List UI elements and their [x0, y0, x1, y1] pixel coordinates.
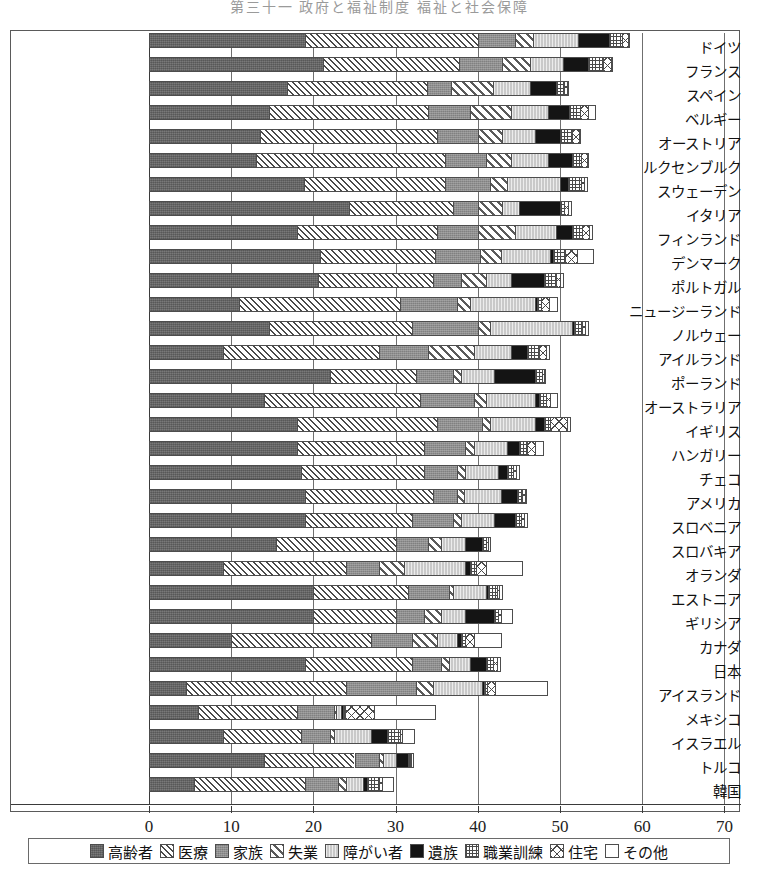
bar-segment-医療: [297, 441, 424, 456]
bar-segment-その他: [589, 225, 593, 240]
bar-segment-高齢者: [149, 513, 305, 528]
bar-segment-その他: [544, 369, 546, 384]
bar-segment-家族: [437, 417, 482, 432]
bar-segment-職業訓練: [486, 657, 493, 672]
bar-segment-失業: [482, 417, 490, 432]
bar-segment-その他: [587, 153, 589, 168]
legend-item-housing: 住宅: [550, 841, 598, 862]
bar-segment-医療: [323, 57, 459, 72]
bar-segment-家族: [400, 297, 458, 312]
bar-row: オーストリア: [11, 129, 741, 153]
bar-row: ポーランド: [11, 369, 741, 393]
bar-segment-医療: [313, 585, 408, 600]
bar-segment-職業訓練: [515, 513, 522, 528]
x-axis: [11, 804, 741, 805]
bar-segment-高齢者: [149, 249, 320, 264]
bar-segment-高齢者: [149, 369, 330, 384]
bar-segment-遺族: [560, 177, 568, 192]
category-label: 日本: [609, 660, 741, 681]
bar-segment-医療: [297, 417, 437, 432]
bar-segment-医療: [305, 33, 478, 48]
bar-segment-医療: [264, 753, 354, 768]
bar-segment-失業: [474, 393, 486, 408]
bar-segment-その他: [488, 537, 490, 552]
bar-segment-その他: [585, 321, 589, 336]
stacked-bar-plot: 010203040506070ドイツフランススペインベルギーオーストリアルクセン…: [11, 31, 741, 813]
bar-segment-医療: [313, 609, 395, 624]
bar-segment-医療: [260, 129, 437, 144]
bar-row: イスラエル: [11, 729, 741, 753]
bar-segment-遺族: [511, 345, 527, 360]
legend-item-medical: 医療: [160, 841, 208, 862]
bar-segment-高齢者: [149, 201, 349, 216]
category-label: ニュージーランド: [609, 300, 741, 321]
bar-segment-高齢者: [149, 57, 323, 72]
bar-segment-その他: [560, 273, 564, 288]
bar-segment-高齢者: [149, 777, 194, 792]
x-tick-label-50: 50: [540, 817, 580, 837]
bar-segment-高齢者: [149, 129, 260, 144]
bar-segment-遺族: [578, 33, 609, 48]
bar-segment-医療: [301, 465, 424, 480]
bar-segment-遺族: [501, 489, 517, 504]
bar-segment-遺族: [556, 225, 572, 240]
bar-segment-高齢者: [149, 705, 198, 720]
bar-segment-障がい者: [515, 225, 556, 240]
category-label: ルクセンブルク: [609, 156, 741, 177]
category-label: ハンガリー: [609, 444, 741, 465]
category-label: イギリス: [609, 420, 741, 441]
bar-row: カナダ: [11, 633, 741, 657]
category-label: フランス: [609, 60, 741, 81]
bar-row: ルクセンブルク: [11, 153, 741, 177]
legend-item-unemployment: 失業: [270, 841, 318, 862]
bar-row: アメリカ: [11, 489, 741, 513]
x-tick-70: [724, 806, 725, 813]
legend-item-training: 職業訓練: [465, 841, 543, 862]
bar-segment-遺族: [494, 369, 535, 384]
bar-segment-家族: [371, 633, 412, 648]
category-label: ポーランド: [609, 372, 741, 393]
bar-segment-家族: [459, 57, 502, 72]
bar-segment-その他: [497, 657, 501, 672]
bar-segment-障がい者: [486, 273, 511, 288]
bar-segment-障がい者: [433, 681, 482, 696]
bar-segment-その他: [525, 489, 527, 504]
bar-segment-失業: [379, 561, 404, 576]
bar-segment-高齢者: [149, 561, 223, 576]
bar-segment-家族: [396, 537, 429, 552]
bar-segment-高齢者: [149, 345, 223, 360]
bar-segment-障がい者: [383, 753, 395, 768]
bar-segment-医療: [223, 561, 346, 576]
x-tick-label-10: 10: [211, 817, 251, 837]
bar-segment-障がい者: [490, 321, 572, 336]
bar-segment-家族: [424, 441, 465, 456]
bar-segment-職業訓練: [588, 57, 603, 72]
bar-segment-高齢者: [149, 585, 313, 600]
bar-segment-職業訓練: [553, 249, 565, 264]
x-tick-label-20: 20: [293, 817, 333, 837]
bar-segment-高齢者: [149, 633, 231, 648]
bar-segment-高齢者: [149, 33, 305, 48]
bar-segment-住宅: [582, 225, 589, 240]
bar-segment-医療: [305, 513, 412, 528]
bar-segment-その他: [550, 393, 558, 408]
bar-segment-遺族: [535, 417, 543, 432]
bar-segment-住宅: [565, 249, 577, 264]
category-label: メキシコ: [609, 708, 741, 729]
bar-segment-医療: [349, 201, 453, 216]
bar-row: スウェーデン: [11, 177, 741, 201]
bar-segment-その他: [611, 57, 613, 72]
bar-segment-住宅: [487, 681, 495, 696]
chart-legend: 高齢者医療家族失業障がい者遺族職業訓練住宅その他: [28, 838, 730, 864]
bar-segment-家族: [408, 585, 449, 600]
legend-swatch-housing: [550, 844, 564, 858]
bar-segment-職業訓練: [535, 369, 542, 384]
category-label: アメリカ: [609, 492, 741, 513]
bar-segment-失業: [428, 537, 440, 552]
bar-segment-障がい者: [464, 489, 501, 504]
bar-segment-遺族: [465, 609, 494, 624]
bar-segment-高齢者: [149, 177, 304, 192]
chart-frame: 010203040506070ドイツフランススペインベルギーオーストリアルクセン…: [10, 30, 740, 812]
bar-segment-失業: [478, 129, 503, 144]
bar-segment-高齢者: [149, 465, 301, 480]
